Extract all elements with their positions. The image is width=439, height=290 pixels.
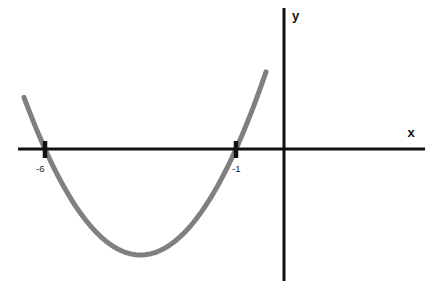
- x-axis-label: x: [407, 125, 415, 140]
- tick-mark-minus-1: [234, 141, 239, 158]
- parabola-plot: -6 -1 x y: [0, 0, 439, 290]
- tick-label-minus-1: -1: [232, 163, 240, 174]
- y-axis-label: y: [292, 8, 300, 23]
- parabola-curve: [24, 72, 266, 255]
- graph-canvas: -6 -1 x y: [0, 0, 439, 290]
- tick-label-minus-6: -6: [36, 163, 44, 174]
- tick-mark-minus-6: [43, 141, 48, 158]
